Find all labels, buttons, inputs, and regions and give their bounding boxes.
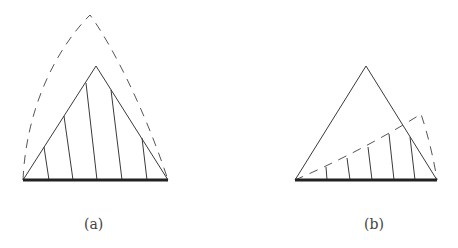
figure-a: [23, 15, 168, 180]
figure-b: [295, 66, 437, 180]
caption-b: (b): [364, 216, 384, 232]
triangle-b: [295, 66, 437, 180]
hatch-lines-b: [326, 134, 415, 180]
dashed-curve-b: [295, 114, 437, 180]
caption-a: (a): [84, 216, 103, 232]
figure-canvas: [0, 0, 458, 248]
hatch-lines-a: [44, 83, 147, 180]
